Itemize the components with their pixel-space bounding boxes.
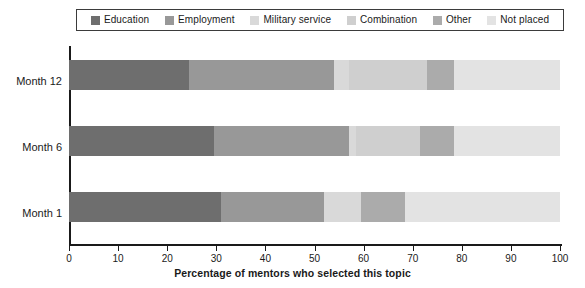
bar-month-1 <box>69 192 560 222</box>
bar-month-12 <box>69 60 560 90</box>
x-tick-label-10: 10 <box>113 253 124 264</box>
x-tick-label-80: 80 <box>456 253 467 264</box>
y-axis-label-month-1: Month 1 <box>0 207 62 219</box>
legend-item-not-placed[interactable]: Not placed <box>487 15 549 25</box>
x-axis-line <box>69 244 562 246</box>
legend-item-label: Military service <box>263 15 331 25</box>
y-axis-label-month-12: Month 12 <box>0 75 62 87</box>
legend-swatch-other <box>433 16 442 25</box>
bar-segment-not-placed <box>454 126 560 156</box>
legend-item-label: Employment <box>178 15 235 25</box>
legend-item-military-service[interactable]: Military service <box>250 15 331 25</box>
bar-segment-not-placed <box>405 192 560 222</box>
legend-swatch-military-service <box>250 16 259 25</box>
legend-item-employment[interactable]: Employment <box>165 15 235 25</box>
x-tick-mark-30 <box>216 246 217 251</box>
bar-segment-employment <box>214 126 349 156</box>
x-axis-title: Percentage of mentors who selected this … <box>0 267 585 279</box>
x-tick-label-90: 90 <box>505 253 516 264</box>
bar-segment-military-service <box>324 192 361 222</box>
legend-item-label: Other <box>446 15 472 25</box>
x-tick-mark-90 <box>511 246 512 251</box>
x-tick-mark-40 <box>265 246 266 251</box>
x-tick-mark-50 <box>315 246 316 251</box>
legend-item-education[interactable]: Education <box>91 15 149 25</box>
legend-item-combination[interactable]: Combination <box>347 15 417 25</box>
stacked-bar-chart: EducationEmploymentMilitary serviceCombi… <box>0 0 585 288</box>
bar-segment-other <box>420 126 454 156</box>
y-axis-label-month-6: Month 6 <box>0 141 62 153</box>
x-tick-label-40: 40 <box>260 253 271 264</box>
bar-segment-employment <box>189 60 334 90</box>
x-tick-label-20: 20 <box>162 253 173 264</box>
x-tick-label-30: 30 <box>211 253 222 264</box>
legend-swatch-education <box>91 16 100 25</box>
bar-segment-combination <box>349 60 428 90</box>
x-tick-label-100: 100 <box>552 253 569 264</box>
bar-segment-other <box>427 60 454 90</box>
bar-segment-employment <box>221 192 324 222</box>
x-tick-label-50: 50 <box>309 253 320 264</box>
x-tick-label-0: 0 <box>66 253 72 264</box>
x-tick-mark-0 <box>69 246 70 251</box>
x-tick-label-60: 60 <box>358 253 369 264</box>
bar-segment-education <box>69 192 221 222</box>
plot-area <box>69 46 560 244</box>
x-tick-mark-100 <box>560 246 561 251</box>
legend-item-label: Combination <box>360 15 417 25</box>
chart-legend: EducationEmploymentMilitary serviceCombi… <box>76 9 564 31</box>
bar-segment-military-service <box>349 126 356 156</box>
bar-segment-education <box>69 60 189 90</box>
bar-segment-education <box>69 126 214 156</box>
legend-item-label: Not placed <box>500 15 549 25</box>
bar-month-6 <box>69 126 560 156</box>
bar-segment-military-service <box>334 60 349 90</box>
x-tick-mark-60 <box>364 246 365 251</box>
x-tick-mark-10 <box>118 246 119 251</box>
legend-swatch-employment <box>165 16 174 25</box>
x-tick-mark-80 <box>462 246 463 251</box>
legend-item-other[interactable]: Other <box>433 15 472 25</box>
bar-segment-combination <box>356 126 420 156</box>
legend-swatch-combination <box>347 16 356 25</box>
x-tick-mark-20 <box>167 246 168 251</box>
legend-swatch-not-placed <box>487 16 496 25</box>
x-tick-mark-70 <box>413 246 414 251</box>
legend-item-label: Education <box>104 15 149 25</box>
x-tick-label-70: 70 <box>407 253 418 264</box>
bar-segment-not-placed <box>454 60 560 90</box>
bar-segment-other <box>361 192 405 222</box>
